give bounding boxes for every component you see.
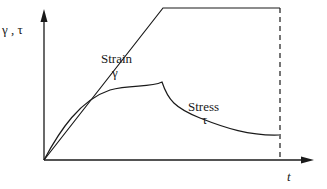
y-axis-label: γ , τ	[2, 23, 23, 36]
x-axis-label: t	[287, 170, 291, 183]
x-axis-arrow-icon	[301, 157, 314, 164]
strain-symbol: γ	[112, 66, 118, 79]
stress-symbol: τ	[202, 113, 207, 126]
stress-curve	[44, 82, 279, 160]
strain-label: Strain	[101, 52, 132, 65]
y-axis-arrow-icon	[41, 9, 48, 22]
diagram-canvas	[0, 0, 327, 189]
strain-curve	[44, 8, 280, 160]
